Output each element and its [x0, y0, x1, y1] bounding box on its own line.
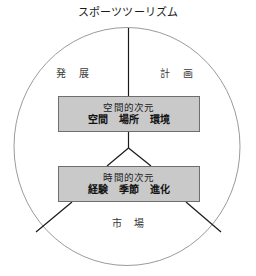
quadrant-label-development: 発 展: [56, 69, 94, 79]
node-spatial-dimension: 空間的次元 空間 場所 環境: [58, 96, 200, 132]
node-temporal-title: 時間的次元: [103, 173, 155, 183]
connector-spatial-to-temporal-right: [129, 148, 152, 166]
node-temporal-items: 経験 季節 進化: [88, 185, 170, 195]
connector-spatial-to-temporal-left: [107, 148, 129, 166]
node-temporal-dimension: 時間的次元 経験 季節 進化: [58, 166, 200, 202]
node-spatial-items: 空間 場所 環境: [88, 115, 170, 125]
diagram-title: スポーツツーリズム: [0, 7, 256, 18]
diagram-canvas: スポーツツーリズム 発 展 計 画 市 場 空間的次元 空間 場所 環境 時間的…: [0, 0, 256, 276]
node-spatial-title: 空間的次元: [103, 103, 155, 113]
quadrant-label-market: 市 場: [0, 219, 256, 229]
diagram-graphics: [0, 0, 256, 276]
outer-circle: [14, 28, 240, 266]
quadrant-label-planning: 計 画: [160, 69, 198, 79]
